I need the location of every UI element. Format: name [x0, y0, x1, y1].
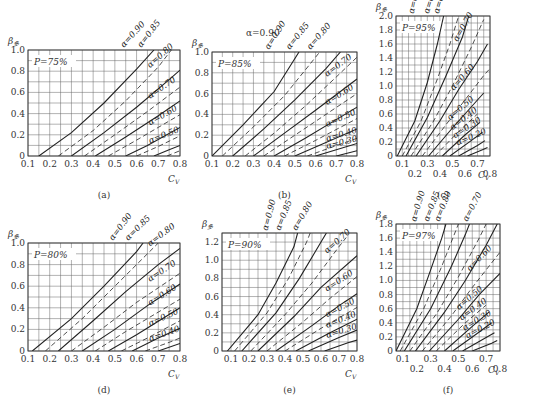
y-tick-label: 1.2 [379, 67, 393, 77]
y-tick-label: 0.8 [205, 273, 220, 283]
y-tick-label: 1.0 [379, 275, 394, 285]
curve-label: α=0.60 [448, 62, 477, 93]
x-tick-label: 0.6 [314, 354, 329, 364]
x-axis-label: CV [345, 369, 357, 380]
x-tick-label: 0.2 [226, 159, 240, 169]
y-tick-label: 1.0 [205, 255, 220, 265]
x-tick-label: 0.5 [108, 159, 123, 169]
x-tick-label: 0.1 [224, 354, 238, 364]
y-tick-label: 0.6 [379, 304, 394, 314]
panel-a: P=75%00.20.40.60.81.00.10.20.30.40.50.60… [7, 18, 187, 200]
y-axis-label: β多 [191, 38, 204, 49]
y-axis-label: β多 [375, 210, 388, 221]
x-tick-label: 0.8 [350, 354, 365, 364]
x-tick-label: 0.4 [433, 169, 448, 179]
panel-title: P=75% [33, 57, 68, 67]
x-tick-label: 0.5 [445, 159, 460, 169]
curve-label: α=0.80 [431, 0, 450, 15]
y-tick-label: 0.6 [205, 292, 220, 302]
x-tick-label: 0.7 [329, 159, 344, 169]
curve-label: α=0.50 [147, 124, 181, 145]
panel-title: P=90% [227, 240, 262, 250]
x-tick-label: 0.1 [21, 159, 35, 169]
x-tick-label: 0.1 [21, 354, 35, 364]
y-tick-label: 1.2 [205, 237, 219, 247]
curve-label: α=0.70 [451, 10, 476, 43]
y-tick-label: 0 [387, 151, 393, 161]
y-axis-label: β多 [375, 2, 388, 13]
y-tick-label: 1.8 [379, 25, 394, 35]
y-tick-label: 0.6 [379, 109, 394, 119]
chart-canvas: α=0.90 P=75%00.20.40.60.81.00.10.20.30.4… [0, 0, 539, 400]
panel-title: P=80% [33, 250, 68, 260]
y-tick-label: 0.8 [195, 68, 210, 78]
y-tick-label: 0.8 [379, 290, 394, 300]
y-tick-label: 0.6 [11, 87, 26, 97]
y-tick-label: 0.8 [11, 66, 26, 76]
x-tick-label: 0.2 [410, 364, 424, 374]
x-tick-label: 0.2 [43, 159, 57, 169]
y-tick-label: 1.4 [379, 53, 394, 63]
panel-caption: (d) [98, 385, 111, 395]
panel-title: P=85% [217, 59, 252, 69]
curve-label: α=0.60 [146, 282, 179, 308]
x-tick-label: 0.5 [296, 354, 311, 364]
y-tick-label: 0.4 [379, 123, 394, 133]
x-tick-label: 0.4 [86, 159, 101, 169]
curve-085 [235, 233, 311, 351]
curve-interp [84, 87, 180, 156]
panel-e: P=90%00.20.40.60.81.01.20.10.20.30.40.50… [201, 198, 364, 395]
y-tick-label: 0.2 [379, 332, 393, 342]
y-tick-label: 0.4 [11, 109, 26, 119]
x-tick-label: 0.6 [308, 159, 323, 169]
y-tick-label: 0.4 [379, 318, 394, 328]
x-tick-label: 0.3 [424, 354, 439, 364]
y-tick-label: 0 [213, 346, 219, 356]
panel-title: P=95% [401, 23, 436, 33]
curve-label: α=0.70 [460, 190, 484, 223]
x-tick-label: 0.8 [173, 354, 188, 364]
panel-caption: (a) [98, 190, 110, 200]
y-tick-label: 0.4 [195, 109, 210, 119]
x-tick-label: 0.6 [129, 354, 144, 364]
x-axis-label: CV [168, 174, 180, 185]
curve-020 [472, 340, 497, 351]
y-axis-label: β多 [7, 229, 20, 240]
x-tick-label: 0.7 [332, 354, 347, 364]
grid [396, 224, 500, 351]
curve-label: α=0.70 [145, 74, 177, 101]
curve-label: α=0.80 [290, 199, 315, 232]
x-tick-label: 0.3 [246, 159, 261, 169]
x-tick-label: 0.2 [408, 169, 422, 179]
x-tick-label: 0.4 [278, 354, 293, 364]
x-tick-label: 0.3 [64, 354, 79, 364]
y-tick-label: 0.6 [195, 89, 210, 99]
y-tick-label: 0.2 [195, 130, 209, 140]
x-tick-label: 0.2 [242, 354, 256, 364]
y-axis-label: β多 [7, 36, 20, 47]
x-tick-label: 0.3 [260, 354, 275, 364]
panel-title: P=97% [401, 231, 436, 241]
x-tick-label: 0.7 [151, 159, 166, 169]
x-tick-label: 0.4 [267, 159, 282, 169]
x-tick-label: 0.2 [43, 354, 57, 364]
y-tick-label: 1.2 [379, 261, 393, 271]
x-tick-label: 0.1 [396, 354, 410, 364]
curve-090 [227, 233, 297, 351]
panel-c: P=95%00.20.40.60.81.01.21.41.61.82.00.10… [375, 0, 497, 200]
x-tick-label: 0.1 [395, 159, 409, 169]
curve-label: α=0.60 [146, 103, 179, 127]
x-tick-label: 0.7 [479, 354, 494, 364]
curve-050 [154, 145, 180, 156]
x-tick-label: 0.6 [458, 169, 473, 179]
y-tick-label: 0.2 [205, 328, 219, 338]
x-tick-label: 0.8 [173, 159, 188, 169]
x-tick-label: 0.6 [465, 364, 480, 374]
y-tick-label: 0.8 [379, 95, 394, 105]
y-tick-label: 1.6 [379, 39, 394, 49]
y-tick-label: 0.2 [11, 324, 25, 334]
x-tick-label: 0.7 [470, 159, 485, 169]
panel-d: P=80%00.20.40.60.81.00.10.20.30.40.50.60… [7, 210, 187, 395]
panel-f: P=97%00.20.40.60.81.01.21.41.61.80.10.20… [375, 189, 507, 395]
x-tick-label: 0.5 [108, 354, 123, 364]
